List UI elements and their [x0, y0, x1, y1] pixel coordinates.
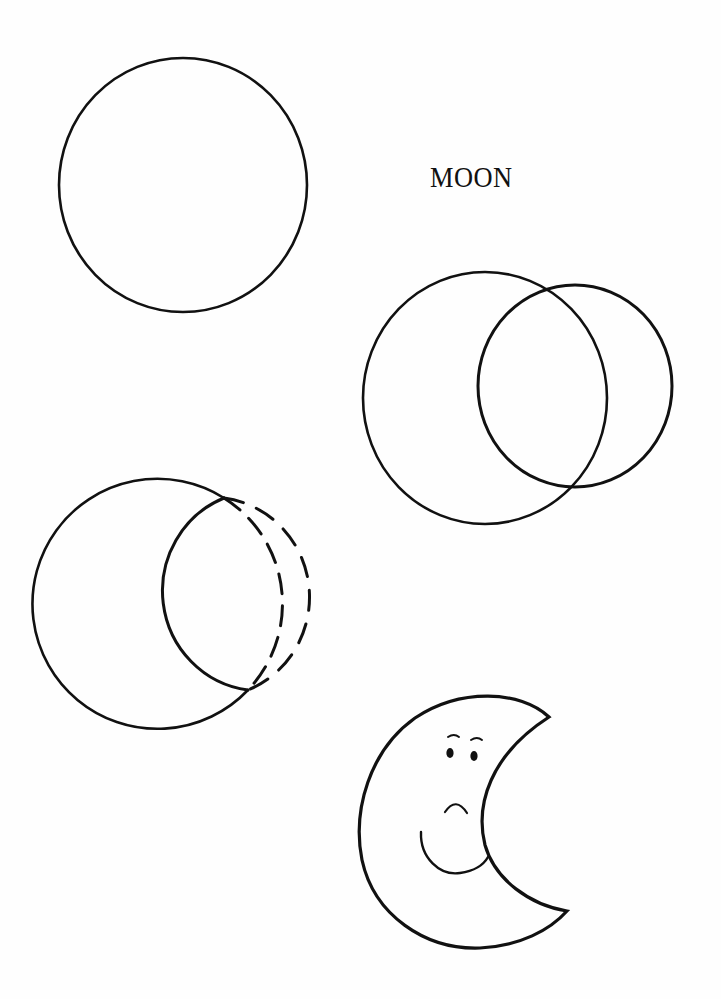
- drawing-page: MOON: [0, 0, 721, 999]
- step-3-crescent-guide: [32, 479, 309, 729]
- step-1-circle: [59, 58, 307, 312]
- moon-drawing-steps: [0, 0, 721, 999]
- step-4-moon-face: [359, 696, 567, 948]
- step-2-overlapping-circles: [363, 272, 672, 524]
- moon-eyes: [446, 748, 477, 761]
